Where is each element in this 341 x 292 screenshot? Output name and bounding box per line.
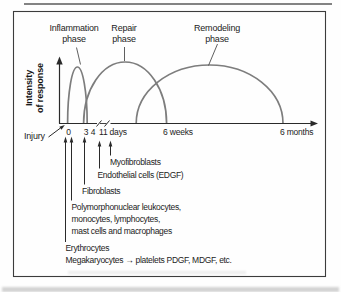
figure-panel: Intensity of response Inflammation phase…	[0, 0, 341, 292]
phase-label-line: phase	[44, 34, 104, 45]
phase-label-repair: Repair phase	[100, 23, 148, 45]
event-label-megakaryocytes: Megakaryocytes → platelets PDGF, MDGF, e…	[66, 254, 232, 266]
y-axis-label-line: of response	[35, 28, 46, 148]
tick-4: 4	[89, 127, 98, 137]
event-label-line: mast cells and macrophages	[72, 225, 181, 237]
phase-label-line: Inflammation	[44, 23, 104, 34]
y-axis-arrowhead-icon	[56, 57, 62, 65]
injury-label: Injury	[24, 131, 45, 141]
y-axis-label-line: Intensity	[24, 28, 35, 148]
x-axis-arrowhead-icon	[311, 121, 319, 127]
event-label-line: Megakaryocytes → platelets PDGF, MDGF, e…	[66, 254, 232, 266]
tick-0: 0	[64, 127, 73, 137]
phase-label-line: Remodeling	[187, 23, 247, 34]
phase-label-line: phase	[100, 34, 148, 45]
event-label-line: Endothelial cells (EDGF)	[98, 169, 184, 181]
phase-label-remodeling: Remodeling phase	[187, 23, 247, 45]
event-arrowhead-icon	[83, 137, 87, 143]
scan-artifact	[68, 271, 246, 274]
event-arrowhead-icon	[70, 137, 74, 143]
event-label-myofibroblasts: Myofibroblasts	[110, 156, 161, 168]
repair-curve	[84, 62, 167, 124]
event-label-line: Erythrocytes	[66, 242, 110, 254]
event-label-fibroblasts: Fibroblasts	[82, 185, 120, 197]
event-label-line: Fibroblasts	[82, 185, 120, 197]
y-axis-label: Intensity of response	[24, 28, 54, 148]
cropped-caption-band	[2, 287, 339, 292]
event-label-line: Polymorphonuclear leukocytes,	[72, 201, 181, 213]
event-label-leukocytes: Polymorphonuclear leukocytes, monocytes,…	[72, 201, 181, 237]
event-arrowhead-icon	[109, 141, 113, 147]
remodeling-curve	[136, 65, 283, 124]
phase-label-inflammation: Inflammation phase	[44, 23, 104, 45]
event-label-line: Myofibroblasts	[110, 156, 161, 168]
phase-label-line: phase	[187, 34, 247, 45]
event-label-erythrocytes: Erythrocytes	[66, 242, 110, 254]
event-label-line: monocytes, lymphocytes,	[72, 213, 181, 225]
remodeling-leader-line	[209, 44, 218, 66]
inflammation-leader-line	[77, 48, 81, 65]
phase-label-line: Repair	[100, 23, 148, 34]
event-arrowhead-icon	[98, 141, 102, 147]
tick-6-weeks: 6 weeks	[163, 127, 193, 137]
event-arrowhead-icon	[64, 137, 68, 143]
tick-6-months: 6 months	[280, 127, 313, 137]
tick-11-days: 11 days	[99, 127, 127, 137]
event-label-endothelial-cells: Endothelial cells (EDGF)	[98, 169, 184, 181]
